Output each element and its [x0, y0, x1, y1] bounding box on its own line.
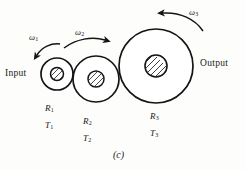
radius-3-label: R3 [150, 112, 159, 121]
radius-2-label: R2 [83, 117, 92, 126]
torque-3-subscript: 3 [155, 132, 158, 138]
radius-2-subscript: 2 [89, 120, 92, 126]
omega-2-label: ω2 [75, 28, 84, 37]
gear-2-body [73, 56, 119, 102]
radius-1-symbol: R [45, 103, 51, 113]
gear-1-body [41, 58, 73, 90]
output-label: Output [200, 59, 228, 69]
radius-2-symbol: R [83, 116, 89, 126]
torque-3-label: T3 [150, 129, 158, 138]
omega-1-label: ω1 [29, 33, 38, 42]
radius-1-subscript: 1 [51, 107, 54, 113]
radius-3-symbol: R [150, 111, 156, 121]
gear-train-figure: Input Output ω1 ω2 ω3 R1 T1 R2 T2 R3 T3 … [0, 0, 245, 170]
torque-1-label: T1 [45, 121, 53, 130]
omega-3-subscript: 3 [195, 11, 198, 17]
torque-2-subscript: 2 [88, 137, 91, 143]
gear-train-drawing [0, 0, 245, 170]
torque-2-label: T2 [83, 134, 91, 143]
omega-2-arrow [64, 38, 105, 48]
torque-1-subscript: 1 [50, 124, 53, 130]
omega-3-label: ω3 [189, 8, 198, 17]
figure-caption: (c) [113, 150, 124, 160]
omega-1-subscript: 1 [35, 36, 38, 42]
radius-1-label: R1 [45, 104, 54, 113]
radius-3-subscript: 3 [156, 115, 159, 121]
input-label: Input [5, 69, 27, 79]
omega-2-subscript: 2 [81, 31, 84, 37]
gear-3-body [119, 29, 193, 103]
omega-1-arrow [37, 44, 60, 55]
